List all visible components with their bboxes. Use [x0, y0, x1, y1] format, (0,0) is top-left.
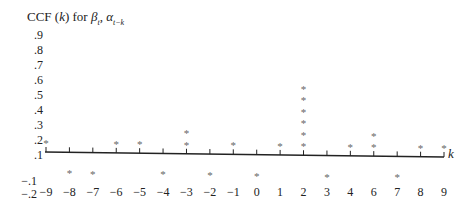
x-tick-label: −2 — [200, 185, 220, 200]
x-tick-label: −7 — [83, 185, 103, 200]
x-tick-label: −9 — [36, 185, 56, 200]
x-axis-title: k — [448, 146, 454, 162]
asterisk-marker: * — [88, 169, 98, 179]
x-tick-label: 7 — [387, 185, 407, 200]
asterisk-marker: * — [299, 118, 309, 128]
y-tick-label: −.2 — [13, 187, 37, 202]
asterisk-marker: * — [416, 143, 426, 153]
asterisk-marker: * — [135, 139, 145, 149]
asterisk-marker: * — [228, 140, 238, 150]
asterisk-marker: * — [41, 138, 51, 148]
asterisk-marker: * — [205, 170, 215, 180]
asterisk-marker: * — [299, 130, 309, 140]
x-tick-label: −5 — [130, 185, 150, 200]
x-tick-label: −3 — [176, 185, 196, 200]
x-tick-label: 0 — [247, 185, 267, 200]
asterisk-marker: * — [252, 171, 262, 181]
x-tick-label: 4 — [340, 185, 360, 200]
asterisk-marker: * — [369, 142, 379, 152]
y-tick-label: .1 — [8, 148, 54, 163]
asterisk-marker: * — [299, 107, 309, 117]
y-tick-label: .5 — [8, 88, 54, 103]
asterisk-marker: * — [64, 168, 74, 178]
asterisk-marker: * — [158, 169, 168, 179]
y-tick-label: .6 — [8, 73, 54, 88]
y-tick-label: .3 — [8, 118, 54, 133]
x-tick-label: −6 — [106, 185, 126, 200]
asterisk-marker: * — [275, 141, 285, 151]
y-tick-label: .4 — [8, 103, 54, 118]
x-tick-label: 6 — [364, 185, 384, 200]
asterisk-marker: * — [322, 172, 332, 182]
y-tick-label: .8 — [8, 43, 54, 58]
asterisk-marker: * — [345, 142, 355, 152]
x-tick-label: 1 — [270, 185, 290, 200]
x-tick-label: −4 — [153, 185, 173, 200]
x-tick-label: 8 — [411, 185, 431, 200]
x-tick-label: 3 — [317, 185, 337, 200]
asterisk-marker: * — [299, 84, 309, 94]
asterisk-marker: * — [181, 128, 191, 138]
asterisk-marker: * — [369, 131, 379, 141]
x-tick-label: −1 — [223, 185, 243, 200]
ccf-chart: CCF (k) for βt, αt−k .9.8.7.6.5.4.3.2.1−… — [0, 0, 475, 207]
y-tick-label: .9 — [8, 28, 54, 43]
x-tick-label: 2 — [294, 185, 314, 200]
asterisk-marker: * — [299, 95, 309, 105]
x-tick-label: 9 — [434, 185, 454, 200]
asterisk-marker: * — [392, 172, 402, 182]
x-tick-label: −8 — [59, 185, 79, 200]
asterisk-marker: * — [299, 141, 309, 151]
y-tick-label: .7 — [8, 58, 54, 73]
asterisk-marker: * — [181, 140, 191, 150]
asterisk-marker: * — [111, 139, 121, 149]
